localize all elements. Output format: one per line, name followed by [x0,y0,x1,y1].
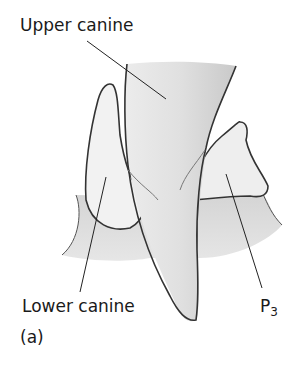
label-lower-canine: Lower canine [22,298,135,315]
label-upper-canine: Upper canine [20,17,133,34]
label-p3-main: P [260,296,270,316]
label-p3: P3 [260,298,278,318]
label-p3-subscript: 3 [270,305,278,319]
panel-label: (a) [20,329,44,346]
